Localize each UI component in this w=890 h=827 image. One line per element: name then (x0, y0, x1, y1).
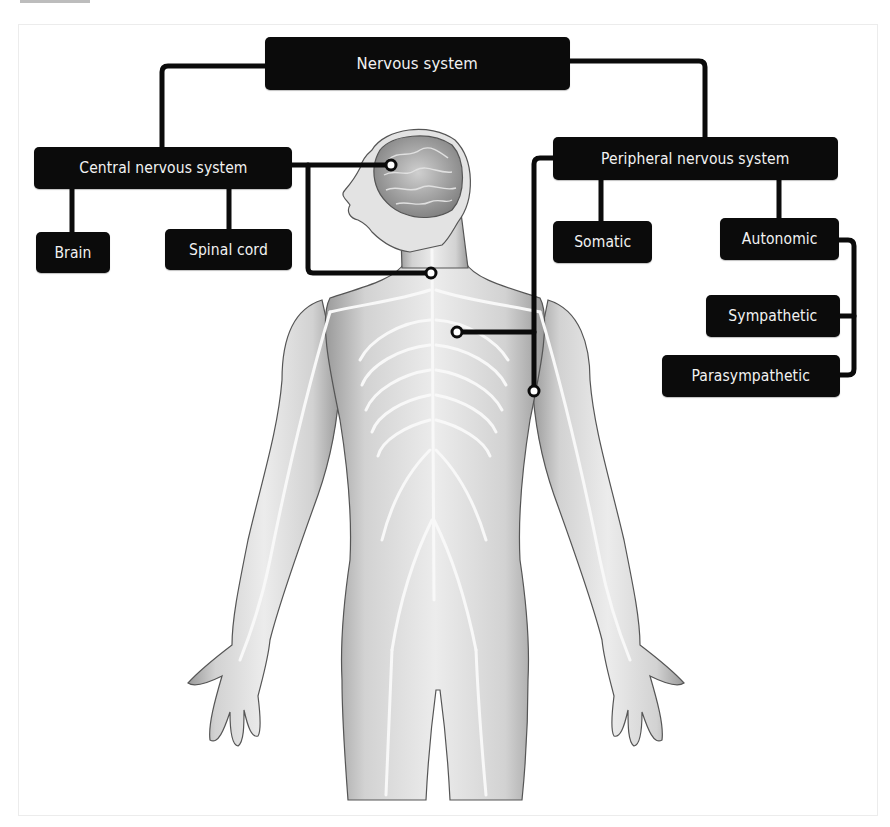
head (343, 129, 470, 252)
node-parasympathetic: Parasympathetic (662, 355, 840, 397)
node-brain: Brain (36, 232, 110, 273)
node-label: Spinal cord (189, 241, 268, 259)
node-spinal-cord: Spinal cord (165, 229, 292, 270)
node-autonomic: Autonomic (720, 218, 839, 260)
node-label: Autonomic (742, 230, 818, 248)
node-nervous-system: Nervous system (265, 37, 570, 90)
node-somatic: Somatic (553, 221, 652, 263)
body-silhouette (188, 205, 684, 800)
node-sympathetic: Sympathetic (706, 295, 840, 337)
node-label: Sympathetic (728, 307, 817, 325)
node-label: Parasympathetic (692, 367, 810, 385)
node-label: Peripheral nervous system (601, 150, 789, 168)
node-peripheral-nervous-system: Peripheral nervous system (553, 137, 838, 180)
node-label: Nervous system (357, 54, 478, 73)
node-label: Central nervous system (79, 159, 247, 177)
node-label: Somatic (574, 233, 631, 251)
human-body-illustration (0, 0, 890, 827)
node-central-nervous-system: Central nervous system (34, 147, 292, 189)
node-label: Brain (54, 244, 91, 262)
